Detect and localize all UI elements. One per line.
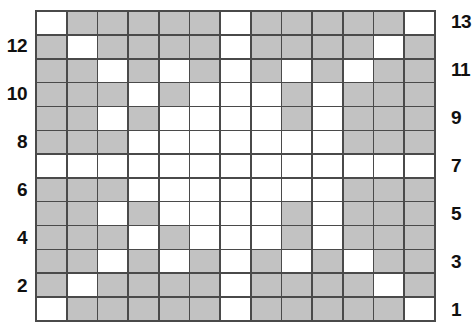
grid-cell[interactable] — [313, 202, 342, 224]
grid-cell[interactable] — [313, 60, 342, 82]
grid-cell[interactable] — [98, 179, 127, 201]
grid-cell[interactable] — [98, 202, 127, 224]
grid-cell[interactable] — [37, 250, 66, 272]
grid-cell[interactable] — [98, 274, 127, 296]
grid-cell[interactable] — [374, 202, 403, 224]
grid-cell[interactable] — [221, 155, 250, 177]
grid-cell[interactable] — [405, 226, 434, 248]
grid-cell[interactable] — [221, 83, 250, 105]
grid-cell[interactable] — [98, 298, 127, 320]
grid-cell[interactable] — [221, 60, 250, 82]
grid-cell[interactable] — [221, 107, 250, 129]
grid-cell[interactable] — [37, 179, 66, 201]
grid-cell[interactable] — [252, 60, 281, 82]
grid-cell[interactable] — [221, 274, 250, 296]
grid-cell[interactable] — [37, 202, 66, 224]
grid-cell[interactable] — [344, 131, 373, 153]
grid-cell[interactable] — [129, 250, 158, 272]
grid-cell[interactable] — [129, 274, 158, 296]
grid-cell[interactable] — [252, 36, 281, 58]
grid-cell[interactable] — [160, 155, 189, 177]
grid-cell[interactable] — [282, 60, 311, 82]
grid-cell[interactable] — [405, 36, 434, 58]
grid-cell[interactable] — [313, 83, 342, 105]
grid-cell[interactable] — [98, 83, 127, 105]
grid-cell[interactable] — [252, 226, 281, 248]
grid-cell[interactable] — [190, 250, 219, 272]
grid-cell[interactable] — [98, 12, 127, 34]
grid-cell[interactable] — [252, 131, 281, 153]
grid-cell[interactable] — [313, 36, 342, 58]
grid-cell[interactable] — [190, 36, 219, 58]
grid-cell[interactable] — [374, 274, 403, 296]
grid-cell[interactable] — [374, 36, 403, 58]
grid-cell[interactable] — [313, 274, 342, 296]
grid-cell[interactable] — [68, 202, 97, 224]
grid-cell[interactable] — [282, 250, 311, 272]
grid-cell[interactable] — [98, 107, 127, 129]
grid-cell[interactable] — [405, 83, 434, 105]
grid-cell[interactable] — [129, 83, 158, 105]
grid-cell[interactable] — [129, 226, 158, 248]
grid-cell[interactable] — [374, 155, 403, 177]
grid-cell[interactable] — [37, 107, 66, 129]
grid-cell[interactable] — [282, 179, 311, 201]
grid-cell[interactable] — [190, 107, 219, 129]
grid-cell[interactable] — [313, 12, 342, 34]
grid-cell[interactable] — [37, 274, 66, 296]
grid-cell[interactable] — [344, 202, 373, 224]
grid-cell[interactable] — [282, 298, 311, 320]
grid-cell[interactable] — [37, 298, 66, 320]
grid-cell[interactable] — [37, 60, 66, 82]
grid-cell[interactable] — [68, 179, 97, 201]
grid-cell[interactable] — [252, 250, 281, 272]
grid-cell[interactable] — [129, 202, 158, 224]
grid-cell[interactable] — [160, 274, 189, 296]
grid-cell[interactable] — [68, 83, 97, 105]
grid-cell[interactable] — [374, 250, 403, 272]
grid-cell[interactable] — [37, 155, 66, 177]
grid-cell[interactable] — [282, 155, 311, 177]
grid-cell[interactable] — [129, 12, 158, 34]
grid-cell[interactable] — [221, 298, 250, 320]
grid-cell[interactable] — [190, 202, 219, 224]
grid-cell[interactable] — [374, 12, 403, 34]
grid-cell[interactable] — [129, 131, 158, 153]
grid-cell[interactable] — [282, 226, 311, 248]
grid-cell[interactable] — [282, 83, 311, 105]
grid-cell[interactable] — [68, 226, 97, 248]
grid-cell[interactable] — [282, 202, 311, 224]
grid-cell[interactable] — [190, 226, 219, 248]
grid-cell[interactable] — [374, 83, 403, 105]
grid-cell[interactable] — [129, 155, 158, 177]
grid-cell[interactable] — [252, 274, 281, 296]
grid-cell[interactable] — [313, 179, 342, 201]
grid-cell[interactable] — [313, 226, 342, 248]
grid-cell[interactable] — [221, 226, 250, 248]
grid-cell[interactable] — [252, 83, 281, 105]
grid-cell[interactable] — [129, 107, 158, 129]
grid-cell[interactable] — [190, 179, 219, 201]
grid-cell[interactable] — [252, 179, 281, 201]
grid-cell[interactable] — [405, 107, 434, 129]
grid-cell[interactable] — [221, 250, 250, 272]
grid-cell[interactable] — [405, 12, 434, 34]
grid-cell[interactable] — [98, 226, 127, 248]
grid-cell[interactable] — [313, 131, 342, 153]
grid-cell[interactable] — [313, 298, 342, 320]
grid-cell[interactable] — [344, 107, 373, 129]
grid-cell[interactable] — [405, 179, 434, 201]
grid-cell[interactable] — [344, 226, 373, 248]
grid-cell[interactable] — [374, 179, 403, 201]
grid-cell[interactable] — [37, 226, 66, 248]
grid-cell[interactable] — [190, 298, 219, 320]
grid-cell[interactable] — [405, 131, 434, 153]
grid-cell[interactable] — [405, 250, 434, 272]
grid-cell[interactable] — [344, 274, 373, 296]
grid-cell[interactable] — [344, 298, 373, 320]
grid-cell[interactable] — [190, 274, 219, 296]
grid-cell[interactable] — [221, 131, 250, 153]
grid-cell[interactable] — [405, 60, 434, 82]
grid-cell[interactable] — [252, 12, 281, 34]
grid-cell[interactable] — [313, 155, 342, 177]
